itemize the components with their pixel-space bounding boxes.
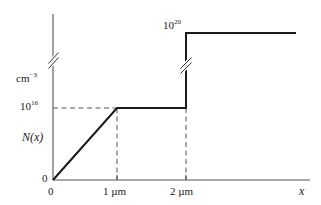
curve-n-of-x xyxy=(53,33,296,180)
y-tick-1e16-mantissa: 10 xyxy=(20,100,31,112)
y-tick-1e20-exponent: 20 xyxy=(174,18,181,26)
y-tick-label-1e16: 1016 xyxy=(20,101,38,112)
x-tick-label-1um: 1 µm xyxy=(103,186,126,197)
y-tick-label-1e20: 1020 xyxy=(163,20,181,31)
y-axis-unit-label: cm−3 xyxy=(16,73,37,84)
y-tick-1e20-mantissa: 10 xyxy=(163,19,174,31)
x-tick-label-0: 0 xyxy=(48,186,54,197)
y-tick-1e16-exponent: 16 xyxy=(31,99,38,107)
y-axis-unit-mantissa: cm xyxy=(16,72,29,84)
x-tick-label-2um: 2 µm xyxy=(170,186,193,197)
series-label-n-of-x: N(x) xyxy=(22,131,43,143)
figure-container: cm−3 1016 N(x) 1020 0 0 1 µm 2 µm x xyxy=(0,0,321,205)
plot-canvas xyxy=(0,0,321,205)
y-origin-label: 0 xyxy=(42,173,48,184)
y-axis-unit-exponent: −3 xyxy=(29,71,36,79)
x-axis-label: x xyxy=(299,185,304,197)
